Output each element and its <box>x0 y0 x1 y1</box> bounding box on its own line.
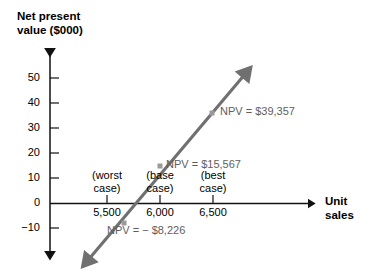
annotation-npv-best-case: NPV = $39,357 <box>220 105 295 118</box>
case-label-best: (best case) <box>188 169 238 195</box>
x-tick-label-5500: 5,500 <box>82 206 132 219</box>
annotation-npv-base-case: NPV = $15,567 <box>166 158 241 171</box>
y-axis-title-line1: Net present <box>17 10 83 24</box>
x-axis-title-line2: sales <box>325 209 354 223</box>
y-axis-title-line2: value ($000) <box>17 24 83 38</box>
y-tick-label-40: 40 <box>8 96 40 109</box>
x-axis-ticks <box>107 195 213 203</box>
y-tick-label-neg10: −10 <box>4 221 40 234</box>
y-axis-title: Net present value ($000) <box>17 10 83 37</box>
case-label-best-line2: case) <box>188 182 238 195</box>
y-tick-label-20: 20 <box>8 146 40 159</box>
npv-sensitivity-chart: Net present value ($000) Unit sales 50 4… <box>0 0 380 276</box>
case-label-worst: (worst case) <box>80 169 134 195</box>
x-axis-title-line1: Unit <box>325 195 354 209</box>
x-axis-title: Unit sales <box>325 195 354 222</box>
y-axis-ticks <box>50 78 59 228</box>
case-label-base: (base case) <box>135 169 185 195</box>
case-label-worst-line2: case) <box>80 182 134 195</box>
y-tick-label-0: 0 <box>8 196 40 209</box>
x-tick-label-6000: 6,000 <box>135 206 185 219</box>
data-point-base-case <box>158 164 163 169</box>
chart-plot-area <box>0 0 380 276</box>
y-tick-label-10: 10 <box>8 171 40 184</box>
x-tick-label-6500: 6,500 <box>188 206 238 219</box>
data-point-best-case <box>210 111 215 116</box>
annotation-npv-worst-case: NPV = − $8,226 <box>107 224 185 237</box>
case-label-worst-line1: (worst <box>80 169 134 182</box>
y-tick-label-30: 30 <box>8 121 40 134</box>
case-label-base-line2: case) <box>135 182 185 195</box>
y-tick-label-50: 50 <box>8 71 40 84</box>
